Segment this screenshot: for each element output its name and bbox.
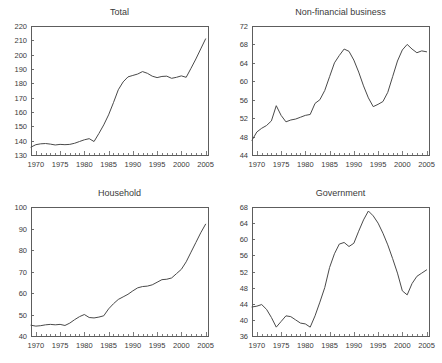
- y-tick-label: 52: [240, 268, 248, 277]
- chart-title-non-financial-business: Non-financial business: [295, 7, 386, 17]
- y-tick-label: 70: [19, 268, 27, 277]
- plot-frame-non-financial-business: [252, 26, 429, 155]
- data-series-total: [31, 39, 206, 147]
- y-tick-label: 40: [19, 332, 27, 341]
- y-tick-label: 68: [240, 203, 248, 212]
- chart-svg-total: Total13014015016017018019020021022019701…: [0, 0, 221, 181]
- x-tick-label: 1980: [76, 341, 93, 350]
- x-tick-label: 1970: [249, 160, 266, 169]
- x-tick-label: 2000: [173, 160, 190, 169]
- x-tick-label: 2000: [394, 160, 411, 169]
- chart-title-household: Household: [98, 188, 141, 198]
- y-tick-label: 44: [240, 300, 248, 309]
- y-axis-government: 364044485256606468: [240, 203, 255, 341]
- x-tick-label: 1980: [76, 160, 93, 169]
- x-tick-label: 1975: [52, 341, 69, 350]
- y-tick-label: 56: [240, 96, 248, 105]
- x-tick-label: 2000: [173, 341, 190, 350]
- y-tick-label: 40: [240, 316, 248, 325]
- data-series-non-financial-business: [252, 44, 427, 140]
- y-tick-label: 48: [240, 284, 248, 293]
- y-tick-label: 140: [14, 137, 27, 146]
- x-tick-label: 1990: [124, 341, 141, 350]
- chart-panel-government: Government364044485256606468197019751980…: [221, 181, 442, 362]
- chart-svg-household: Household4050607080901001970197519801985…: [0, 181, 221, 362]
- y-tick-label: 50: [19, 311, 27, 320]
- y-tick-label: 48: [240, 133, 248, 142]
- x-tick-label: 1990: [345, 160, 362, 169]
- x-tick-label: 1990: [345, 341, 362, 350]
- x-tick-label: 1975: [273, 160, 290, 169]
- y-tick-label: 100: [14, 203, 27, 212]
- y-tick-label: 60: [240, 77, 248, 86]
- x-tick-label: 1985: [100, 341, 117, 350]
- x-tick-label: 1975: [273, 341, 290, 350]
- y-tick-label: 90: [19, 225, 27, 234]
- x-tick-label: 2005: [418, 341, 435, 350]
- y-tick-label: 60: [19, 289, 27, 298]
- x-tick-label: 1980: [297, 341, 314, 350]
- x-tick-label: 1995: [149, 160, 166, 169]
- chart-svg-government: Government364044485256606468197019751980…: [221, 181, 442, 362]
- chart-svg-non-financial-business: Non-financial business444852566064687219…: [221, 0, 442, 181]
- x-tick-label: 2005: [418, 160, 435, 169]
- x-axis-minor-ticks-non-financial-business: [253, 151, 428, 155]
- y-tick-label: 210: [14, 36, 27, 45]
- plot-frame-household: [31, 207, 208, 336]
- y-tick-label: 130: [14, 151, 27, 160]
- x-tick-label: 1970: [249, 341, 266, 350]
- y-tick-label: 160: [14, 108, 27, 117]
- data-series-government: [252, 211, 427, 327]
- y-tick-label: 150: [14, 122, 27, 131]
- y-tick-label: 44: [240, 151, 248, 160]
- multi-panel-line-chart-figure: Total13014015016017018019020021022019701…: [0, 0, 442, 363]
- x-tick-label: 1975: [52, 160, 69, 169]
- x-axis-labels-household: 19701975198019851990199520002005: [28, 341, 214, 350]
- x-axis-minor-ticks-government: [253, 332, 428, 336]
- x-axis-labels-total: 19701975198019851990199520002005: [28, 160, 214, 169]
- y-tick-label: 56: [240, 251, 248, 260]
- x-axis-labels-non-financial-business: 19701975198019851990199520002005: [249, 160, 435, 169]
- y-tick-label: 60: [240, 235, 248, 244]
- x-tick-label: 1990: [124, 160, 141, 169]
- x-tick-label: 2000: [394, 341, 411, 350]
- x-tick-label: 2005: [197, 341, 214, 350]
- x-tick-label: 1985: [100, 160, 117, 169]
- y-tick-label: 52: [240, 114, 248, 123]
- y-tick-label: 64: [240, 219, 248, 228]
- x-tick-label: 1995: [370, 160, 387, 169]
- plot-frame-government: [252, 207, 429, 336]
- y-tick-label: 170: [14, 94, 27, 103]
- y-tick-label: 68: [240, 40, 248, 49]
- x-tick-label: 1985: [321, 160, 338, 169]
- x-tick-label: 1985: [321, 341, 338, 350]
- y-tick-label: 36: [240, 332, 248, 341]
- chart-title-government: Government: [316, 188, 366, 198]
- x-tick-label: 1970: [28, 160, 45, 169]
- x-axis-minor-ticks-total: [32, 151, 207, 155]
- x-tick-label: 1980: [297, 160, 314, 169]
- chart-panel-household: Household4050607080901001970197519801985…: [0, 181, 221, 362]
- x-tick-label: 2005: [197, 160, 214, 169]
- x-tick-label: 1970: [28, 341, 45, 350]
- y-tick-label: 220: [14, 22, 27, 31]
- x-tick-label: 1995: [370, 341, 387, 350]
- x-tick-label: 1995: [149, 341, 166, 350]
- chart-panel-non-financial-business: Non-financial business444852566064687219…: [221, 0, 442, 181]
- x-axis-minor-ticks-household: [32, 332, 207, 336]
- x-axis-labels-government: 19701975198019851990199520002005: [249, 341, 435, 350]
- y-tick-label: 180: [14, 79, 27, 88]
- chart-title-total: Total: [110, 7, 129, 17]
- y-tick-label: 80: [19, 246, 27, 255]
- data-series-household: [31, 224, 206, 326]
- y-tick-label: 190: [14, 65, 27, 74]
- y-tick-label: 200: [14, 51, 27, 60]
- y-tick-label: 64: [240, 59, 248, 68]
- chart-panel-total: Total13014015016017018019020021022019701…: [0, 0, 221, 181]
- plot-frame-total: [31, 26, 208, 155]
- y-tick-label: 72: [240, 22, 248, 31]
